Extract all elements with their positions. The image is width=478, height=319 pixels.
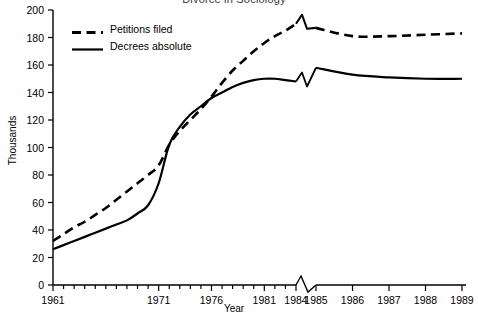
- y-tick-label: 180: [10, 33, 44, 43]
- legend-label: Decrees absolute: [110, 41, 192, 52]
- legend-item: Petitions filed: [72, 22, 192, 37]
- x-tick-label: 1987: [369, 295, 409, 305]
- y-tick-label: 40: [10, 225, 44, 235]
- y-tick-label: 200: [10, 5, 44, 15]
- x-tick-label: 1989: [442, 295, 478, 305]
- x-tick-label: 1976: [191, 295, 231, 305]
- series-line-right: [316, 68, 462, 79]
- x-tick-label: 1988: [406, 295, 446, 305]
- dashed-line-icon: [72, 24, 103, 35]
- y-tick-label: 20: [10, 253, 44, 263]
- y-tick-label: 160: [10, 60, 44, 70]
- y-tick-label: 140: [10, 88, 44, 98]
- x-tick-label: 1961: [33, 295, 73, 305]
- y-tick-label: 100: [10, 143, 44, 153]
- x-tick-label: 1985: [296, 295, 336, 305]
- series-line-right: [316, 28, 462, 37]
- series-2: [53, 68, 462, 250]
- series-line-left: [53, 79, 296, 250]
- y-tick-label: 60: [10, 198, 44, 208]
- x-tick-label: 1986: [333, 295, 373, 305]
- y-tick-label: 120: [10, 115, 44, 125]
- legend-item: Decrees absolute: [72, 39, 192, 54]
- series-break-marker: [296, 15, 316, 29]
- series-break-marker: [296, 68, 316, 87]
- legend-label: Petitions filed: [110, 24, 172, 35]
- solid-line-icon: [72, 41, 103, 52]
- chart-legend: Petitions filedDecrees absolute: [72, 22, 192, 56]
- x-tick-label: 1971: [139, 295, 179, 305]
- y-tick-label: 80: [10, 170, 44, 180]
- y-tick-label: 0: [10, 280, 44, 290]
- x-axis-break-marker: [296, 276, 316, 292]
